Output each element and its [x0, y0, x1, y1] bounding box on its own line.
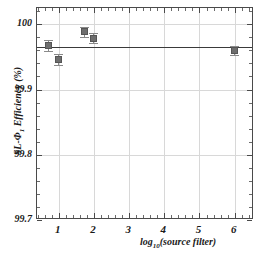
axis-tick-x [59, 8, 60, 13]
axis-minor-tick-x [221, 215, 222, 218]
axis-minor-tick-x [101, 215, 102, 218]
axis-minor-tick-y [37, 129, 40, 130]
error-bar-cap-bottom [89, 43, 98, 44]
axis-tick-y [37, 220, 42, 221]
axis-tick-x [235, 213, 236, 218]
axis-tick-x [199, 8, 200, 13]
axis-minor-tick-x [157, 215, 158, 218]
axis-tick-y [247, 155, 252, 156]
axis-minor-tick-y [37, 11, 40, 12]
error-bar-cap-top [44, 40, 53, 41]
data-point [86, 33, 102, 43]
axis-minor-tick-x [178, 8, 179, 11]
x-tick-label: 5 [183, 223, 213, 235]
axis-minor-tick-x [87, 215, 88, 218]
axis-minor-tick-x [87, 8, 88, 11]
axis-minor-tick-x [136, 215, 137, 218]
error-bar-cap-top [54, 54, 63, 55]
axis-minor-tick-x [143, 8, 144, 11]
grid-line-horizontal [37, 24, 252, 25]
plot-frame [36, 7, 253, 219]
reference-line [37, 47, 252, 48]
axis-minor-tick-y [249, 142, 252, 143]
axis-minor-tick-x [207, 8, 208, 11]
y-tick-label: 99.7 [0, 213, 32, 224]
axis-minor-tick-x [122, 215, 123, 218]
axis-minor-tick-y [249, 76, 252, 77]
axis-minor-tick-y [249, 50, 252, 51]
axis-minor-tick-x [221, 8, 222, 11]
data-point [227, 46, 243, 55]
x-tick-label: 2 [78, 223, 108, 235]
axis-minor-tick-x [45, 215, 46, 218]
axis-minor-tick-x [52, 215, 53, 218]
axis-minor-tick-y [37, 181, 40, 182]
axis-minor-tick-x [192, 8, 193, 11]
axis-minor-tick-x [178, 215, 179, 218]
axis-minor-tick-y [249, 168, 252, 169]
axis-tick-y [37, 90, 42, 91]
axis-minor-tick-y [249, 207, 252, 208]
grid-line-horizontal [37, 155, 252, 156]
axis-minor-tick-y [37, 37, 40, 38]
axis-minor-tick-x [150, 215, 151, 218]
axis-minor-tick-x [108, 215, 109, 218]
axis-tick-y [247, 90, 252, 91]
axis-minor-tick-x [242, 8, 243, 11]
grid-line-vertical [164, 8, 165, 218]
axis-minor-tick-y [37, 103, 40, 104]
axis-minor-tick-x [66, 8, 67, 11]
axis-minor-tick-y [249, 103, 252, 104]
axis-minor-tick-y [37, 168, 40, 169]
axis-minor-tick-x [228, 215, 229, 218]
data-marker [231, 47, 238, 54]
y-tick-label: 100 [0, 17, 32, 28]
axis-minor-tick-x [242, 215, 243, 218]
axis-tick-x [164, 8, 165, 13]
x-tick-label: 4 [148, 223, 178, 235]
axis-minor-tick-y [249, 37, 252, 38]
axis-minor-tick-x [73, 215, 74, 218]
axis-minor-tick-x [214, 215, 215, 218]
grid-line-vertical [129, 8, 130, 218]
axis-minor-tick-x [228, 8, 229, 11]
axis-tick-x [235, 8, 236, 13]
data-point [51, 54, 67, 65]
error-bar-cap-bottom [44, 51, 53, 52]
data-marker [55, 56, 62, 63]
axis-tick-y [37, 24, 42, 25]
axis-minor-tick-x [66, 215, 67, 218]
axis-tick-x [94, 213, 95, 218]
x-axis-title: log10(source filter) [140, 236, 216, 250]
axis-tick-x [199, 213, 200, 218]
axis-minor-tick-x [45, 8, 46, 11]
axis-minor-tick-x [122, 8, 123, 11]
axis-minor-tick-y [37, 116, 40, 117]
axis-minor-tick-x [52, 8, 53, 11]
axis-minor-tick-y [249, 129, 252, 130]
axis-tick-y [247, 24, 252, 25]
axis-minor-tick-x [185, 215, 186, 218]
axis-tick-x [129, 8, 130, 13]
axis-minor-tick-y [37, 63, 40, 64]
y-axis-title: SL-Φ1 Efficiency (%) [12, 36, 26, 186]
chart-figure: 123456 99.799.899.9100 log10(source filt… [0, 0, 263, 254]
axis-tick-x [164, 213, 165, 218]
axis-minor-tick-y [249, 11, 252, 12]
axis-minor-tick-x [80, 8, 81, 11]
axis-minor-tick-y [37, 194, 40, 195]
x-tick-label: 3 [113, 223, 143, 235]
axis-minor-tick-x [101, 8, 102, 11]
axis-minor-tick-x [108, 8, 109, 11]
axis-minor-tick-x [136, 8, 137, 11]
grid-line-vertical [59, 8, 60, 218]
data-marker [90, 35, 97, 42]
data-point [40, 40, 56, 51]
axis-tick-x [59, 213, 60, 218]
axis-minor-tick-x [249, 215, 250, 218]
axis-tick-y [247, 220, 252, 221]
axis-minor-tick-x [115, 8, 116, 11]
error-bar-cap-bottom [230, 55, 239, 56]
axis-minor-tick-y [249, 181, 252, 182]
axis-minor-tick-x [150, 8, 151, 11]
